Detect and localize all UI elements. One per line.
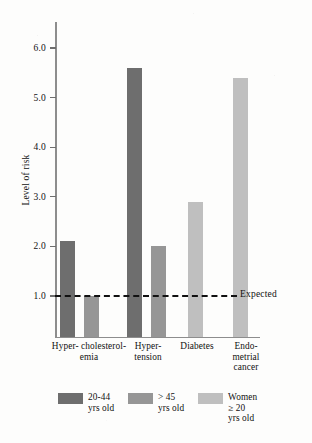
legend-label: > 45 yrs old xyxy=(158,392,184,413)
bar xyxy=(60,241,75,337)
plot-area: 1.02.03.04.05.06.0 Level of risk Expecte… xyxy=(0,0,312,443)
x-axis-label-hypercholesterolemia: Hyper- cholesterol- emia xyxy=(47,341,131,362)
legend-item: Women ≥ 20 yrs old xyxy=(198,392,257,424)
bar xyxy=(151,246,166,337)
chart-figure: 1.02.03.04.05.06.0 Level of risk Expecte… xyxy=(0,0,312,443)
legend-swatch xyxy=(128,393,153,404)
legend-swatch xyxy=(198,393,223,404)
x-axis-label-endometrial-cancer: Endo- metrial cancer xyxy=(222,341,270,373)
chart-legend: 20-44 yrs old> 45 yrs oldWomen ≥ 20 yrs … xyxy=(0,392,312,442)
bar xyxy=(188,202,203,337)
expected-reference-line xyxy=(55,295,237,297)
x-axis-label-diabetes: Diabetes xyxy=(170,341,224,352)
legend-label: Women ≥ 20 yrs old xyxy=(228,392,257,424)
expected-label: Expected xyxy=(240,289,277,299)
bar xyxy=(84,296,99,337)
legend-label: 20-44 yrs old xyxy=(88,392,114,413)
legend-item: 20-44 yrs old xyxy=(58,392,114,413)
legend-item: > 45 yrs old xyxy=(128,392,184,413)
bar-series-group xyxy=(0,0,312,337)
legend-swatch xyxy=(58,393,83,404)
x-axis-label-hypertension: Hyper- tension xyxy=(122,341,174,362)
